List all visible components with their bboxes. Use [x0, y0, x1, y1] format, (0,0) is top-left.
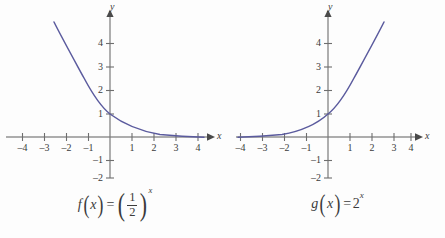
caption-decaying-exponential: f ( x ) = ( 1 2 ) x: [0, 191, 230, 219]
y-tick-label--2: –2: [303, 172, 321, 183]
y-axis-label: y: [110, 1, 114, 12]
open-paren: (: [320, 194, 326, 215]
x-tick-label--1: –1: [81, 142, 97, 153]
close-paren: ): [335, 194, 341, 215]
open-paren: (: [83, 195, 89, 216]
x-tick-label-2: 2: [364, 142, 380, 153]
x-tick-label-4: 4: [190, 142, 206, 153]
y-tick-label-2: 2: [89, 84, 103, 95]
y-tick-label-4: 4: [89, 37, 103, 48]
equals-sign: =: [342, 196, 353, 212]
y-axis-label: y: [328, 1, 332, 12]
exponent-x: x: [149, 185, 153, 195]
x-tick-label--2: –2: [277, 142, 293, 153]
x-tick-label--2: –2: [59, 142, 75, 153]
curve-decaying-exponential: [54, 22, 204, 137]
x-tick-label--1: –1: [299, 142, 315, 153]
y-tick-label-2: 2: [307, 84, 321, 95]
close-paren: ): [98, 195, 104, 216]
y-tick-label-1: 1: [89, 108, 103, 119]
base-two: 2: [353, 196, 360, 212]
y-tick-label--1: –1: [85, 154, 103, 165]
fraction-numerator: 1: [127, 191, 137, 205]
y-tick-label--1: –1: [303, 154, 321, 165]
variable-x: x: [327, 196, 333, 212]
x-tick-label-3: 3: [386, 142, 402, 153]
x-tick-label-4: 4: [403, 142, 419, 153]
x-axis-arrow: [207, 133, 215, 141]
x-tick-label-1: 1: [342, 142, 358, 153]
plot-decaying-exponential: [0, 0, 230, 185]
x-tick-label--3: –3: [37, 142, 53, 153]
chart-panel-decaying-exponential: y x –4 –3 –2 –1 1 2 3 4 4 3 2 1 –1 –2 f …: [0, 0, 230, 238]
x-tick-label--3: –3: [255, 142, 271, 153]
y-tick-label-3: 3: [89, 61, 103, 72]
plot-growing-exponential: [230, 0, 445, 185]
x-tick-label--4: –4: [233, 142, 249, 153]
y-tick-label-1: 1: [307, 108, 321, 119]
x-tick-label--4: –4: [15, 142, 31, 153]
x-axis-arrow: [415, 133, 423, 141]
exponential-functions-figure: y x –4 –3 –2 –1 1 2 3 4 4 3 2 1 –1 –2 f …: [0, 0, 445, 238]
chart-panel-growing-exponential: y x –4 –3 –2 –1 1 2 3 4 4 3 2 1 –1 –2 g …: [230, 0, 445, 238]
exponent-x: x: [360, 190, 364, 200]
fraction-denominator: 2: [127, 206, 137, 220]
caption-growing-exponential: g ( x ) = 2 x: [230, 194, 445, 215]
x-tick-label-3: 3: [168, 142, 184, 153]
y-tick-label-4: 4: [307, 37, 321, 48]
y-tick-label--2: –2: [85, 172, 103, 183]
x-axis-label: x: [425, 130, 429, 141]
equals-sign: =: [105, 197, 116, 213]
x-tick-label-2: 2: [146, 142, 162, 153]
big-open-paren: (: [118, 192, 125, 218]
x-axis-label: x: [217, 130, 221, 141]
fraction-one-half: 1 2: [127, 191, 138, 219]
function-name-f: f: [78, 197, 82, 213]
x-tick-label-1: 1: [124, 142, 140, 153]
big-close-paren: ): [140, 192, 147, 218]
variable-x: x: [90, 197, 96, 213]
y-tick-label-3: 3: [307, 61, 321, 72]
function-name-g: g: [311, 196, 318, 212]
